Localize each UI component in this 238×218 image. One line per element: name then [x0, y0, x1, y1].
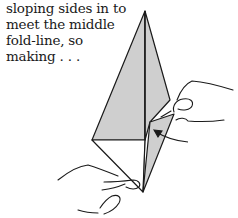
paper-kite	[92, 11, 174, 192]
origami-folding-illustration	[0, 0, 238, 218]
